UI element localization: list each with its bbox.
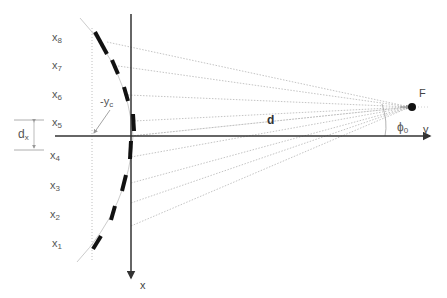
label-x3: x3 [50, 180, 60, 193]
label-phi0: ϕ0 [397, 121, 408, 135]
label-x8-sub: 8 [58, 36, 62, 45]
label-yc: -yc [100, 96, 113, 109]
segment-x7 [112, 60, 118, 74]
label-x1: x1 [52, 238, 62, 251]
label-x6: x6 [52, 89, 62, 102]
label-distance-d: d [267, 114, 274, 126]
segment-x3 [122, 175, 126, 191]
label-x5: x5 [52, 117, 62, 130]
label-phi0-sub: 0 [404, 126, 408, 135]
angle-arc [382, 104, 386, 136]
label-yc-text: -y [100, 95, 109, 107]
segment-x2 [111, 206, 115, 220]
label-dx: dx [18, 128, 29, 142]
label-dx-sub: x [25, 133, 29, 142]
label-focus-f: F [419, 88, 426, 99]
focus-point [408, 103, 416, 111]
label-phi0-text: ϕ [397, 120, 404, 134]
label-x1-sub: 1 [58, 242, 62, 251]
label-yc-sub: c [109, 100, 113, 109]
label-y-axis: y [423, 124, 429, 135]
label-x4-sub: 4 [56, 154, 60, 163]
segment-x8 [95, 32, 107, 54]
label-x7-sub: 7 [58, 64, 62, 73]
yc-arrow [94, 110, 110, 133]
reflector-segments [93, 32, 134, 249]
segment-x5 [133, 114, 134, 131]
diagram-canvas [0, 0, 447, 298]
label-x2: x2 [50, 209, 60, 222]
label-x2-sub: 2 [56, 213, 60, 222]
label-x4: x4 [50, 150, 60, 163]
label-x8: x8 [52, 32, 62, 45]
label-x6-sub: 6 [58, 93, 62, 102]
arc-guide [77, 18, 133, 262]
label-x3-sub: 3 [56, 184, 60, 193]
segment-x6 [124, 87, 128, 101]
label-x7: x7 [52, 60, 62, 73]
segment-x4 [130, 141, 131, 159]
label-x-axis: x [140, 280, 146, 291]
label-x5-sub: 5 [58, 121, 62, 130]
label-dx-text: d [18, 127, 25, 141]
